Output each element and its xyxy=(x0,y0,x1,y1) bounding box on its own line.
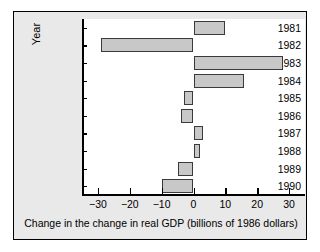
x-tick-mark-10 xyxy=(225,188,226,195)
y-tick-label-1990: 1990 xyxy=(244,181,306,191)
x-tick-mark-0 xyxy=(194,188,195,195)
x-tick-mark--20 xyxy=(130,188,131,195)
y-tick-label-1988: 1988 xyxy=(244,146,306,156)
chart-panel: Year 19811982198319841985198619871988198… xyxy=(13,11,307,240)
bar-1988 xyxy=(194,144,200,158)
y-axis-title: Year xyxy=(30,7,42,61)
y-tick-label-1984: 1984 xyxy=(244,76,306,86)
y-tick-label-1985: 1985 xyxy=(244,93,306,103)
bar-1987 xyxy=(194,126,204,140)
x-axis-title: Change in the change in real GDP (billio… xyxy=(14,217,308,229)
y-tick-label-1987: 1987 xyxy=(244,128,306,138)
x-tick-mark-20 xyxy=(257,188,258,195)
x-tick-mark--10 xyxy=(162,188,163,195)
y-tick-mark-1986 xyxy=(82,116,87,117)
x-tick-label-30: 30 xyxy=(269,198,309,210)
y-tick-mark-1985 xyxy=(82,98,87,99)
y-tick-mark-1983 xyxy=(82,63,87,64)
y-tick-label-1986: 1986 xyxy=(244,111,306,121)
y-tick-label-1982: 1982 xyxy=(244,40,306,50)
x-tick-mark-30 xyxy=(289,188,290,195)
bar-1985 xyxy=(184,91,194,105)
bar-1981 xyxy=(194,21,226,35)
y-tick-mark-1990 xyxy=(82,186,87,187)
y-tick-mark-1989 xyxy=(82,169,87,170)
y-tick-mark-1984 xyxy=(82,81,87,82)
bar-1982 xyxy=(101,38,193,52)
bar-1986 xyxy=(181,109,194,123)
x-tick-mark--30 xyxy=(98,188,99,195)
y-tick-label-1981: 1981 xyxy=(244,23,306,33)
bar-1984 xyxy=(194,74,245,88)
y-tick-mark-1988 xyxy=(82,151,87,152)
y-tick-mark-1981 xyxy=(82,28,87,29)
bar-1990 xyxy=(162,179,194,193)
bar-1983 xyxy=(194,56,283,70)
y-tick-label-1989: 1989 xyxy=(244,164,306,174)
y-tick-mark-1982 xyxy=(82,45,87,46)
y-tick-mark-1987 xyxy=(82,133,87,134)
bar-1989 xyxy=(178,162,194,176)
chart-figure: Year 19811982198319841985198619871988198… xyxy=(0,0,320,252)
